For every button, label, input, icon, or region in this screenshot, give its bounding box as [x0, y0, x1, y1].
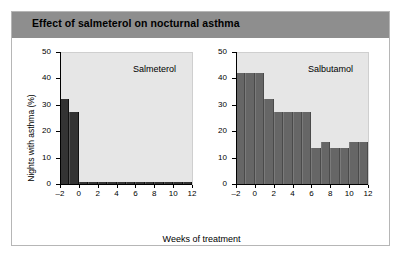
title-bar: Effect of salmeterol on nocturnal asthma	[12, 12, 389, 38]
x-axis-tick-label: –2	[50, 189, 70, 198]
bar	[359, 142, 368, 185]
x-axis-tick-label: –2	[226, 189, 246, 198]
bar	[236, 73, 245, 185]
y-axis-tick-label: 50	[205, 47, 227, 56]
y-axis-tick	[56, 52, 60, 53]
figure-card: Effect of salmeterol on nocturnal asthma…	[11, 11, 390, 246]
x-axis-tick	[293, 185, 294, 188]
y-axis-line	[236, 52, 237, 184]
x-axis-tick	[154, 185, 155, 188]
x-axis-tick	[330, 185, 331, 188]
x-axis-title: Weeks of treatment	[12, 234, 391, 244]
x-axis-tick-label: 12	[358, 189, 378, 198]
bar	[330, 148, 339, 185]
y-axis-tick	[232, 158, 236, 159]
y-axis-tick-label: 10	[205, 153, 227, 162]
y-axis-tick-label: 20	[29, 126, 51, 135]
bar	[60, 99, 69, 185]
bar	[321, 142, 330, 185]
x-axis-tick	[255, 185, 256, 188]
page-title: Effect of salmeterol on nocturnal asthma	[32, 17, 240, 29]
y-axis-tick-label: 20	[205, 126, 227, 135]
x-axis-tick-label: 6	[125, 189, 145, 198]
bar	[255, 73, 264, 185]
x-axis-tick-label: 0	[69, 189, 89, 198]
x-axis-tick	[79, 185, 80, 188]
y-axis-tick-label: 0	[29, 179, 51, 188]
y-axis-tick	[232, 52, 236, 53]
bar	[264, 99, 273, 185]
x-axis-tick	[173, 185, 174, 188]
y-axis-tick-label: 30	[29, 100, 51, 109]
y-axis-tick	[232, 105, 236, 106]
y-axis-tick	[56, 78, 60, 79]
x-axis-tick	[311, 185, 312, 188]
x-axis-tick	[236, 185, 237, 188]
bar	[302, 112, 311, 185]
y-axis-tick	[56, 158, 60, 159]
x-axis-tick	[135, 185, 136, 188]
plot-area: Nights with asthma (%) 01020304050–20246…	[12, 38, 389, 247]
y-axis-tick-label: 50	[29, 47, 51, 56]
y-axis-tick-label: 30	[205, 100, 227, 109]
x-axis-tick-label: 4	[107, 189, 127, 198]
bar	[340, 148, 349, 185]
bar	[245, 73, 254, 185]
bar	[311, 148, 320, 185]
x-axis-tick-label: 4	[283, 189, 303, 198]
y-axis-tick	[56, 105, 60, 106]
y-axis-tick-label: 0	[205, 179, 227, 188]
x-axis-tick-label: 12	[182, 189, 202, 198]
x-axis-tick-label: 8	[320, 189, 340, 198]
x-axis-tick-label: 10	[163, 189, 183, 198]
x-axis-tick-label: 2	[264, 189, 284, 198]
panel-salbutamol: 01020304050–2024681012 Salbutamol	[203, 46, 388, 224]
x-axis-tick	[349, 185, 350, 188]
y-axis-tick	[232, 78, 236, 79]
bar	[349, 142, 358, 185]
x-axis-tick	[98, 185, 99, 188]
bar	[293, 112, 302, 185]
y-axis-tick-label: 10	[29, 153, 51, 162]
y-axis-tick	[56, 131, 60, 132]
x-axis-tick	[117, 185, 118, 188]
x-axis-tick-label: 2	[88, 189, 108, 198]
panel-label-salbutamol: Salbutamol	[308, 64, 353, 74]
panel-salmeterol: Nights with asthma (%) 01020304050–20246…	[15, 46, 203, 224]
y-axis-tick	[232, 131, 236, 132]
x-axis-tick-label: 0	[245, 189, 265, 198]
bar	[69, 112, 78, 185]
x-axis-tick	[274, 185, 275, 188]
bar	[274, 112, 283, 185]
x-axis-tick	[60, 185, 61, 188]
panel-label-salmeterol: Salmeterol	[133, 64, 176, 74]
x-axis-tick	[368, 185, 369, 188]
x-axis-tick-label: 8	[144, 189, 164, 198]
x-axis-tick-label: 10	[339, 189, 359, 198]
y-axis-tick-label: 40	[205, 73, 227, 82]
x-axis-tick-label: 6	[301, 189, 321, 198]
y-axis-line	[60, 52, 61, 184]
x-axis-tick	[192, 185, 193, 188]
y-axis-tick-label: 40	[29, 73, 51, 82]
bar	[283, 112, 292, 185]
